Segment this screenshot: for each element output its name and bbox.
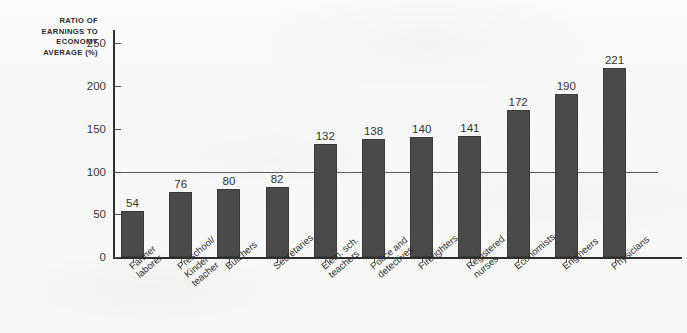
y-tick-label: 150 [87, 123, 106, 135]
y-tick-label: 250 [87, 37, 106, 49]
bar-value-label: 141 [460, 122, 479, 134]
bar-value-label: 221 [605, 54, 624, 66]
bar: 132 [314, 144, 337, 257]
bar-value-label: 80 [222, 175, 235, 187]
bar-value-label: 54 [126, 197, 139, 209]
bar-value-label: 132 [316, 130, 335, 142]
bar: 76 [169, 192, 192, 257]
y-axis-line [113, 30, 115, 259]
bar: 140 [410, 137, 433, 257]
bar: 141 [458, 136, 481, 257]
y-tick-mark [113, 43, 121, 44]
plot-area: 050100150200250 547680821321381401411721… [113, 30, 682, 259]
y-tick-mark [113, 172, 121, 173]
bar-chart: RATIO OF EARNINGS TO ECONOMY AVERAGE (%)… [0, 0, 687, 333]
y-tick-mark [113, 257, 121, 258]
bar-value-label: 190 [557, 80, 576, 92]
bar: 221 [603, 68, 626, 258]
bar: 138 [362, 139, 385, 257]
bar-value-label: 138 [364, 125, 383, 137]
y-tick-mark [113, 214, 121, 215]
y-tick-label: 50 [93, 208, 106, 220]
bar: 172 [507, 110, 530, 258]
bar: 82 [266, 187, 289, 257]
y-tick-mark [113, 86, 121, 87]
y-axis-title: RATIO OF EARNINGS TO ECONOMY AVERAGE (%) [14, 16, 98, 58]
bar-value-label: 82 [271, 173, 284, 185]
y-tick-label: 200 [87, 80, 106, 92]
bar-value-label: 140 [412, 123, 431, 135]
bar: 190 [555, 94, 578, 257]
bar-value-label: 76 [174, 178, 187, 190]
y-tick-label: 0 [100, 251, 106, 263]
y-tick-label: 100 [87, 166, 106, 178]
bar-value-label: 172 [509, 96, 528, 108]
y-tick-mark [113, 129, 121, 130]
